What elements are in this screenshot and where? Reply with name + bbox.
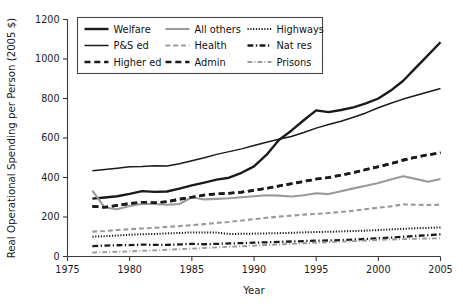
x-axis-title: Year [242, 285, 265, 296]
series-line-health [92, 204, 440, 231]
series-line-all-others [92, 176, 440, 209]
legend-item-highways-label: Highways [277, 24, 324, 35]
x-tick-label: 2000 [366, 264, 390, 275]
y-axis-ticks: 020040060080010001200 [35, 14, 67, 262]
y-tick-label: 600 [41, 132, 59, 143]
legend-item-all-others-label: All others [195, 24, 241, 35]
chart-container: 020040060080010001200 197519801985199019… [0, 0, 463, 304]
y-axis-title: Real Operational Spending per Person (20… [6, 18, 17, 259]
y-tick-label: 400 [41, 172, 59, 183]
legend-item-higher-ed-label: Higher ed [114, 57, 162, 68]
x-tick-label: 1990 [242, 264, 266, 275]
x-axis-ticks: 1975198019851990199520002005 [55, 257, 452, 275]
legend-item-admin-label: Admin [195, 57, 226, 68]
y-tick-label: 800 [41, 93, 59, 104]
legend-item-prisons-label: Prisons [277, 57, 312, 68]
y-tick-label: 1200 [35, 14, 59, 25]
y-tick-label: 200 [41, 211, 59, 222]
legend-item-health-label: Health [195, 40, 227, 51]
y-tick-label: 0 [53, 251, 59, 262]
legend-item-welfare-label: Welfare [114, 24, 151, 35]
series-line-highways [92, 227, 440, 236]
x-tick-label: 1980 [117, 264, 141, 275]
legend-item-nat-res-label: Nat res [277, 40, 312, 51]
line-chart: 020040060080010001200 197519801985199019… [0, 0, 463, 304]
x-tick-label: 1985 [180, 264, 204, 275]
y-tick-label: 1000 [35, 53, 59, 64]
x-tick-label: 1995 [304, 264, 328, 275]
chart-legend: WelfareAll othersHighwaysP&S edHealthNat… [78, 18, 324, 74]
x-tick-label: 1975 [55, 264, 79, 275]
legend-item-p-s-ed-label: P&S ed [114, 40, 149, 51]
x-tick-label: 2005 [428, 264, 452, 275]
series-line-p-s-ed [92, 88, 440, 170]
